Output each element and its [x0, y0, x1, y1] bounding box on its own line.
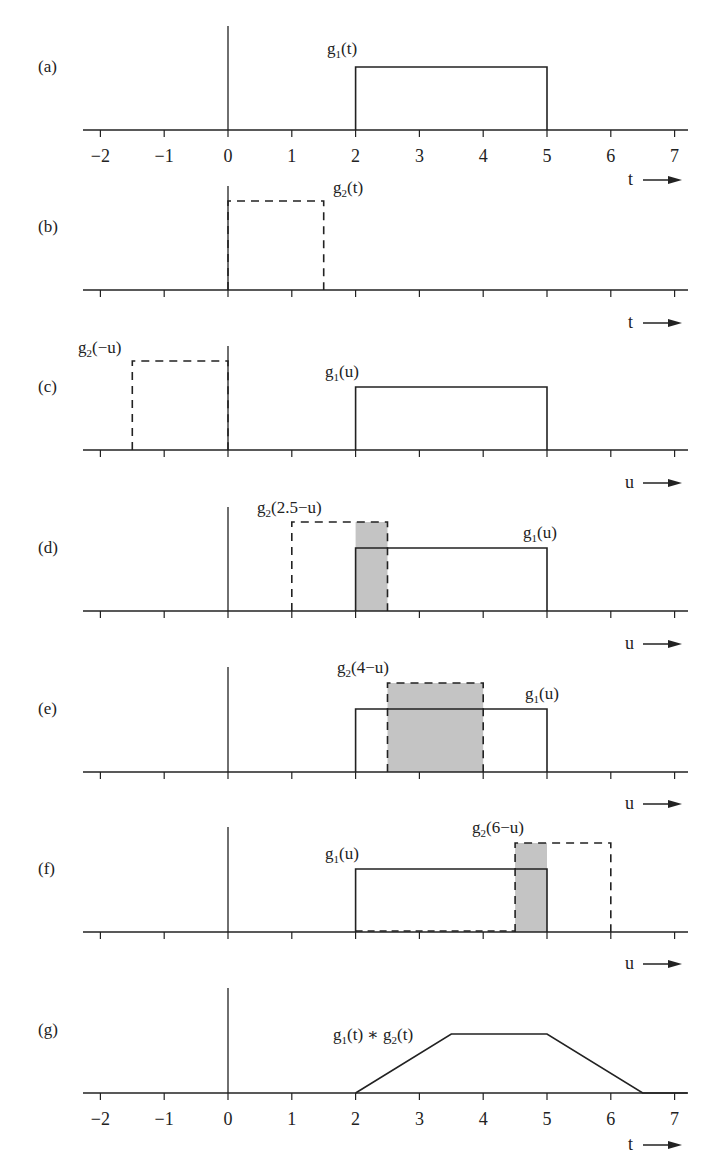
- axis-variable-label: u: [625, 793, 634, 813]
- g1-label: g1(u): [523, 523, 557, 544]
- g1-pulse: [356, 67, 547, 130]
- arrow-head-icon: [668, 800, 682, 808]
- panel-g: (g)−2−101234567g1(t) ∗ g2(t): [38, 988, 688, 1129]
- g1-label: g1(u): [325, 844, 359, 865]
- g2-reversed-label: g2(−u): [78, 338, 121, 359]
- axis-arrow-u: u: [625, 472, 682, 492]
- tick-label: 3: [415, 146, 424, 166]
- overlap-area: [356, 522, 388, 611]
- tick-label: 2: [351, 1109, 360, 1129]
- convolution-label: g1(t) ∗ g2(t): [333, 1025, 413, 1046]
- axis-arrow-t: t: [628, 169, 682, 189]
- tick-label: 7: [670, 146, 679, 166]
- panel-a: (a)−2−101234567g1(t): [38, 26, 688, 166]
- panel-label: (d): [38, 538, 58, 557]
- arrow-head-icon: [668, 960, 682, 968]
- tick-label: 0: [224, 1109, 233, 1129]
- overlap-area: [388, 683, 484, 772]
- panel-label: (a): [38, 57, 57, 76]
- axis-arrow-t: t: [628, 1134, 682, 1154]
- g1-label: g1(t): [327, 39, 357, 60]
- tick-label: 2: [351, 146, 360, 166]
- axis-variable-label: t: [628, 1134, 633, 1154]
- panel-e: (e)g2(4−u)g1(u): [38, 658, 688, 779]
- tick-label: −2: [91, 146, 110, 166]
- tick-label: 4: [479, 1109, 488, 1129]
- g1-pulse: [356, 387, 547, 450]
- arrow-head-icon: [668, 176, 682, 184]
- g2-shifted-label: g2(2.5−u): [257, 498, 322, 519]
- axis-variable-label: t: [628, 169, 633, 189]
- tick-label: 5: [543, 146, 552, 166]
- axis-variable-label: t: [628, 312, 633, 332]
- tick-label: 6: [606, 146, 615, 166]
- arrow-head-icon: [668, 479, 682, 487]
- panel-d: (d)g2(2.5−u)g1(u): [38, 498, 688, 618]
- g2-shifted-label: g2(4−u): [337, 658, 389, 679]
- panel-label: (f): [38, 859, 55, 878]
- axis-variable-label: u: [625, 953, 634, 973]
- axis-arrow-u: u: [625, 793, 682, 813]
- panel-label: (c): [38, 377, 57, 396]
- tick-label: 5: [543, 1109, 552, 1129]
- tick-label: 6: [606, 1109, 615, 1129]
- g2-shifted-label: g2(6−u): [472, 818, 524, 839]
- overlap-area: [515, 843, 547, 932]
- axis-variable-label: u: [625, 633, 634, 653]
- tick-label: −1: [155, 1109, 174, 1129]
- tick-label: 0: [224, 146, 233, 166]
- tick-label: −2: [91, 1109, 110, 1129]
- g2-reversed-pulse: [132, 361, 228, 450]
- tick-label: 1: [287, 146, 296, 166]
- tick-label: 1: [287, 1109, 296, 1129]
- tick-label: 7: [670, 1109, 679, 1129]
- panel-label: (g): [38, 1020, 58, 1039]
- convolution-figure: (a)−2−101234567g1(t)(b)g2(t)(c)g2(−u)g1(…: [0, 0, 727, 1176]
- tick-label: 3: [415, 1109, 424, 1129]
- tick-label: −1: [155, 146, 174, 166]
- panel-f: (f)g2(6−u)g1(u): [38, 818, 688, 939]
- axis-arrow-u: u: [625, 953, 682, 973]
- arrow-head-icon: [668, 319, 682, 327]
- g1-label: g1(u): [525, 684, 559, 705]
- panel-c: (c)g2(−u)g1(u): [38, 338, 688, 457]
- arrow-head-icon: [668, 1141, 682, 1149]
- g2-pulse: [228, 201, 324, 290]
- panel-label: (b): [38, 217, 58, 236]
- panel-label: (e): [38, 699, 57, 718]
- g2-label: g2(t): [333, 178, 363, 199]
- axis-arrow-t: t: [628, 312, 682, 332]
- g1-label: g1(u): [325, 362, 359, 383]
- axis-arrow-u: u: [625, 633, 682, 653]
- arrow-head-icon: [668, 640, 682, 648]
- axis-variable-label: u: [625, 472, 634, 492]
- panel-b: (b)g2(t): [38, 178, 688, 297]
- tick-label: 4: [479, 146, 488, 166]
